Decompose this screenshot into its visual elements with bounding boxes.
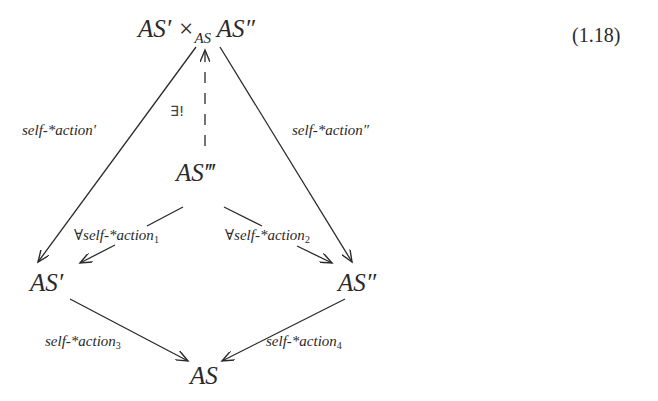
equation-number: (1.18)	[572, 25, 620, 45]
arrow-triple-to-as-double-prime	[297, 246, 332, 263]
label-self-action-prime: self-*action′	[22, 123, 96, 138]
label-self-action-double-prime: self-*action″	[292, 123, 369, 138]
label-self-action-4: self-*action4	[266, 334, 342, 351]
node-as-triple-prime: AS‴	[176, 160, 214, 185]
arrow-triple-to-as-prime	[80, 245, 115, 263]
node-pullback: AS′ ×AS AS″	[138, 16, 255, 46]
node-as: AS	[190, 363, 218, 388]
node-pullback-subscript: AS	[194, 30, 211, 46]
label-unique-exists: ∃!	[170, 104, 184, 118]
node-as-prime: AS′	[30, 270, 63, 295]
arrow-as-double-prime-to-as	[222, 299, 345, 361]
label-self-action-3: self-*action3	[45, 334, 121, 351]
commutative-diagram: AS′ ×AS AS″ (1.18) ∃! self-*action′ self…	[0, 0, 658, 401]
arrow-as-prime-to-as	[70, 299, 188, 361]
label-forall-action-1: ∀self-*action1	[74, 228, 159, 245]
label-forall-action-2: ∀self-*action2	[225, 228, 310, 245]
node-as-double-prime: AS″	[338, 270, 376, 295]
